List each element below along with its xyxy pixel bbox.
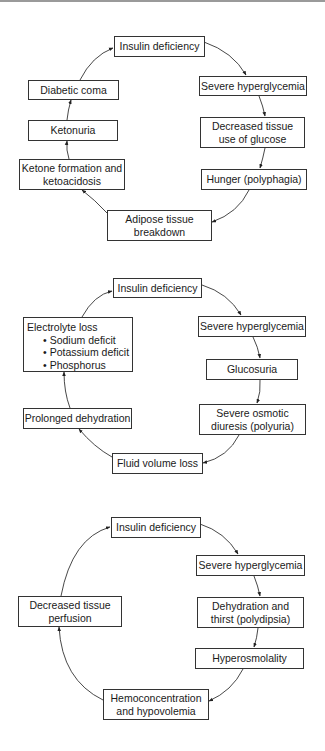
arrow-d2-fluid-to-prolonged (79, 429, 112, 457)
arrow-d2-prolonged-to-electrolyte (64, 372, 70, 408)
node-label-line-1: Decreased tissue (212, 120, 293, 133)
node-electrolyte-loss: Electrolyte loss Sodium deficit Potassiu… (23, 317, 133, 372)
arrow-d1-decreased-to-hunger (260, 148, 265, 168)
node-severe-hyperglycemia: Severe hyperglycemia (196, 555, 305, 576)
arrow-d2-electrolyte-to-insulin (82, 291, 112, 317)
node-diabetic-coma: Diabetic coma (28, 80, 119, 100)
node-ketonuria: Ketonuria (28, 120, 118, 141)
node-title: Electrolyte loss (27, 321, 98, 334)
node-label: Diabetic coma (40, 84, 107, 97)
node-ketone-formation: Ketone formation and ketoacidosis (19, 159, 125, 190)
node-label: Fluid volume loss (117, 457, 198, 470)
node-severe-hyperglycemia: Severe hyperglycemia (198, 316, 306, 337)
arrow-d3-dehydration-to-hyperosmolality (254, 628, 258, 647)
arrow-d3-perfusion-to-insulin (61, 527, 110, 596)
node-hunger-polyphagia: Hunger (polyphagia) (201, 169, 307, 190)
node-label: Glucosuria (227, 363, 277, 376)
node-decreased-tissue-perfusion: Decreased tissue perfusion (18, 596, 122, 627)
node-label-line-1: Dehydration and (212, 600, 289, 613)
node-fluid-volume-loss: Fluid volume loss (112, 453, 203, 474)
node-label-line-1: Severe osmotic (216, 407, 288, 420)
node-label-line-1: Ketone formation and (22, 162, 122, 175)
node-label-line-2: breakdown (134, 226, 185, 239)
node-dehydration-thirst: Dehydration and thirst (polydipsia) (197, 597, 304, 628)
arrow-d2-hyperglycemia-to-glucosuria (253, 337, 260, 358)
arrow-d3-insulin-to-hyperglycemia (200, 524, 238, 554)
arrow-d1-ketone-to-ketonuria (67, 141, 69, 159)
node-glucosuria: Glucosuria (206, 359, 298, 380)
node-label-line-1: Decreased tissue (29, 599, 110, 612)
arrow-d1-hunger-to-adipose (212, 190, 249, 222)
node-hyperosmolality: Hyperosmolality (195, 648, 304, 669)
node-label: Hunger (polyphagia) (206, 173, 301, 186)
node-label-line-2: thirst (polydipsia) (211, 613, 290, 626)
node-prolonged-dehydration: Prolonged dehydration (23, 408, 132, 429)
arrow-d3-hemoconcentration-to-perfusion (59, 627, 103, 700)
arrow-d2-diuresis-to-fluid (203, 435, 239, 463)
node-label: Insulin deficiency (118, 282, 198, 295)
node-label-line-2: and hypovolemia (116, 705, 195, 718)
node-decreased-tissue-glucose-use: Decreased tissue use of glucose (200, 117, 305, 148)
node-hemoconcentration: Hemoconcentration and hypovolemia (103, 689, 209, 720)
node-label-line-2: ketoacidosis (43, 175, 101, 188)
node-severe-hyperglycemia: Severe hyperglycemia (199, 76, 307, 96)
node-label: Hyperosmolality (212, 652, 287, 665)
arrow-d2-glucosuria-to-diuresis (257, 380, 260, 403)
node-label-line-2: diuresis (polyuria) (211, 420, 294, 433)
node-label: Ketonuria (51, 124, 96, 137)
arrow-d3-hyperosmolality-to-hemoconcentration (209, 669, 243, 701)
bullet-sodium-deficit: Sodium deficit (27, 334, 116, 347)
node-label: Prolonged dehydration (25, 412, 131, 425)
node-osmotic-diuresis: Severe osmotic diuresis (polyuria) (199, 404, 306, 435)
node-label: Severe hyperglycemia (201, 80, 305, 93)
node-insulin-deficiency: Insulin deficiency (111, 517, 201, 538)
arrow-d3-hyperglycemia-to-dehydration (254, 576, 260, 596)
node-label: Severe hyperglycemia (200, 320, 304, 333)
node-label-line-2: perfusion (48, 612, 91, 625)
node-label-line-1: Hemoconcentration (110, 692, 201, 705)
arrow-d1-coma-to-insulin (80, 48, 113, 80)
node-insulin-deficiency: Insulin deficiency (113, 278, 202, 298)
bullet-phosphorus: Phosphorus (27, 359, 106, 372)
bullet-potassium-deficit: Potassium deficit (27, 346, 129, 359)
node-label-line-1: Adipose tissue (125, 213, 193, 226)
arrow-d1-adipose-to-ketone (82, 190, 107, 213)
node-label: Insulin deficiency (120, 40, 200, 53)
arrow-d1-ketonuria-to-coma (67, 100, 71, 120)
arrow-d2-insulin-to-hyperglycemia (202, 285, 241, 315)
node-label: Severe hyperglycemia (199, 559, 303, 572)
arrow-d1-insulin-to-hyperglycemia (204, 42, 246, 75)
arrow-d1-hyperglycemia-to-decreased (259, 96, 265, 116)
node-insulin-deficiency: Insulin deficiency (114, 36, 205, 57)
node-adipose-breakdown: Adipose tissue breakdown (107, 210, 212, 241)
node-label: Insulin deficiency (116, 521, 196, 534)
node-label-line-2: use of glucose (219, 133, 287, 146)
